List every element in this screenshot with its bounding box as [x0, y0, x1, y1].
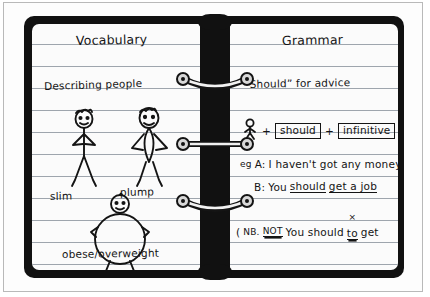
nb-not-word: NOT [263, 226, 283, 237]
right-page-title: Grammar [282, 32, 343, 48]
cross-out-mark: × [348, 213, 356, 222]
formula-box-infinitive: infinitive [338, 123, 395, 138]
speaker-a-text: I haven't got any money [269, 158, 398, 170]
formula-box-should: should [275, 123, 321, 138]
nb-note: ( NB. NOT You should to × get [236, 222, 379, 241]
speaker-b-pre: You [268, 181, 287, 193]
speaker-b-label: B: [254, 181, 265, 193]
plump-stick-figure [120, 106, 180, 194]
nb-label: NB. [243, 227, 259, 237]
speaker-b-get-a-job: get a job [329, 180, 377, 193]
example-line-b: B: You should get a job [254, 180, 377, 193]
nb-crossed-to: to × [347, 222, 358, 241]
formula-plus-2: + [325, 125, 334, 137]
example-line-a: eg A: I haven't got any money [240, 158, 398, 170]
obese-label: obese/overweight [62, 247, 159, 260]
slim-stick-figure [62, 108, 108, 192]
formula-plus-1: + [262, 125, 271, 137]
slim-label: slim [50, 190, 73, 202]
left-page-title: Vocabulary [76, 32, 148, 48]
should-for-advice-heading: “Should” for advice [244, 76, 350, 90]
grammar-formula: + should + infinitive [242, 118, 395, 144]
ring-top [198, 84, 232, 85]
nb-open-paren: ( [236, 226, 240, 238]
ring-middle [198, 148, 232, 149]
ring-bottom [198, 206, 232, 207]
speaker-b-should: should [290, 180, 326, 193]
notebook-screenshot: Vocabulary Describing people [0, 0, 430, 297]
nb-text-post: get [361, 226, 379, 238]
nb-crossed-word: to [347, 227, 358, 240]
nb-text-pre: You should [286, 226, 344, 238]
